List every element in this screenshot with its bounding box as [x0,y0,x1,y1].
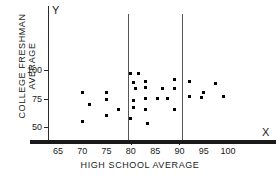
data-point [144,80,147,83]
x-tick-label-90: 90 [169,146,189,156]
data-point [105,98,108,101]
data-point [156,97,159,100]
x-tick-label-70: 70 [72,146,92,156]
x-tick-label-65: 65 [48,146,68,156]
data-point [88,103,91,106]
x-tick-label-85: 85 [145,146,165,156]
x-tick-label-75: 75 [97,146,117,156]
y-axis-letter: Y [52,4,59,16]
data-point [81,120,84,123]
data-point [105,91,108,94]
data-point [129,72,132,75]
data-point [132,106,135,109]
x-axis-line [30,140,276,144]
y-tick-100 [44,70,49,71]
y-axis-line [48,6,49,140]
x-tick-label-100: 100 [218,146,238,156]
x-axis-letter: X [262,126,269,138]
data-point [202,91,205,94]
y-tick-50 [44,127,49,128]
data-point [222,95,225,98]
data-point [132,81,135,84]
data-point [129,117,132,120]
data-point [144,108,147,111]
data-point [166,97,169,100]
x-tick-label-95: 95 [194,146,214,156]
data-point [146,122,149,125]
y-axis-title: COLLEGE FRESHMAN AVERAGE [17,0,37,141]
data-point [173,87,176,90]
data-point [173,78,176,81]
x-axis-title: HIGH SCHOOL AVERAGE [0,160,280,170]
data-point [214,82,217,85]
x-tick-80 [131,140,132,145]
x-tick-90 [179,140,180,145]
y-tick-75 [44,99,49,100]
data-point [137,72,140,75]
data-point [134,87,137,90]
data-point [105,114,108,117]
vertical-reference-line-2 [182,14,183,140]
data-point [132,99,135,102]
vertical-reference-line-1 [128,14,129,140]
scatter-plot-figure: Y X 5075100 65707580859095100 HIGH SCHOO… [0,0,280,185]
data-point [188,95,191,98]
data-point [173,108,176,111]
x-tick-label-80: 80 [121,146,141,156]
data-point [117,108,120,111]
data-point [161,87,164,90]
data-point [188,80,191,83]
data-point [144,97,147,100]
data-point [81,91,84,94]
data-point [200,96,203,99]
data-point [144,86,147,89]
